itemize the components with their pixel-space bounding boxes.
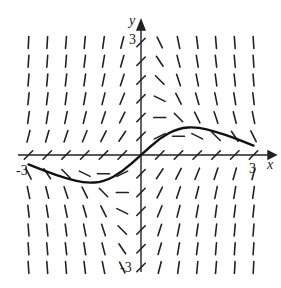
slope-segment bbox=[178, 262, 180, 274]
slope-segment bbox=[46, 112, 48, 124]
slope-segment bbox=[119, 131, 126, 141]
slope-segment bbox=[64, 131, 68, 142]
slope-segment bbox=[234, 205, 236, 217]
slope-segment bbox=[234, 37, 235, 49]
slope-segment bbox=[102, 74, 104, 86]
slope-segment bbox=[84, 262, 86, 274]
slope-segment bbox=[47, 37, 48, 49]
slope-segment bbox=[156, 56, 163, 66]
slope-segment bbox=[177, 55, 180, 67]
slope-segment bbox=[47, 55, 48, 67]
slope-segment bbox=[216, 37, 217, 49]
slope-segment bbox=[47, 262, 48, 274]
slope-segment bbox=[216, 243, 217, 255]
slope-segment bbox=[28, 224, 29, 236]
y-tick-label-neg3: -3 bbox=[120, 261, 132, 275]
slope-segment bbox=[215, 187, 217, 199]
slope-segment bbox=[177, 74, 181, 85]
slope-segment bbox=[233, 112, 236, 124]
slope-segment bbox=[47, 243, 48, 255]
slope-segment bbox=[197, 243, 199, 255]
slope-segment bbox=[84, 74, 86, 86]
slope-segment bbox=[120, 93, 125, 104]
slope-segment bbox=[158, 262, 161, 274]
slope-segment bbox=[46, 131, 49, 143]
slope-segment bbox=[253, 187, 255, 199]
y-axis-arrow-icon bbox=[137, 20, 145, 30]
slope-segment bbox=[46, 205, 48, 217]
slope-segment bbox=[120, 112, 125, 123]
slope-segment bbox=[196, 187, 199, 199]
slope-segment bbox=[101, 206, 106, 217]
y-axis-label: y bbox=[129, 14, 135, 28]
slope-segment bbox=[177, 205, 180, 217]
slope-segment bbox=[83, 206, 86, 218]
axes bbox=[18, 20, 276, 272]
slope-segment bbox=[234, 187, 236, 199]
slope-segment bbox=[28, 37, 29, 49]
slope-segment bbox=[101, 131, 106, 142]
slope-segment bbox=[196, 93, 199, 105]
slope-segment bbox=[103, 55, 105, 67]
slope-segment bbox=[178, 243, 180, 255]
slope-segment bbox=[215, 74, 217, 86]
slope-segment bbox=[158, 224, 162, 235]
slope-segment bbox=[253, 74, 254, 86]
slope-segment bbox=[102, 262, 104, 274]
slope-segment bbox=[215, 93, 217, 105]
slope-segment bbox=[28, 93, 29, 105]
slope-segment bbox=[99, 188, 107, 196]
slope-segment bbox=[196, 55, 198, 67]
slope-segment bbox=[65, 205, 67, 217]
slope-segment bbox=[121, 37, 124, 49]
slope-segment bbox=[65, 224, 67, 236]
slope-segment bbox=[47, 224, 48, 236]
slope-segment bbox=[47, 93, 49, 105]
slope-segment bbox=[157, 187, 162, 198]
slope-segment bbox=[177, 187, 181, 198]
slope-segment bbox=[158, 206, 163, 217]
slope-segment bbox=[234, 55, 235, 67]
slope-segment bbox=[253, 224, 254, 236]
slope-segment bbox=[65, 243, 66, 255]
slope-segment bbox=[197, 37, 199, 49]
slope-segment bbox=[46, 187, 49, 199]
slope-segment bbox=[253, 93, 254, 105]
slope-segment bbox=[253, 55, 254, 67]
slope-segment bbox=[176, 93, 181, 104]
slope-segment bbox=[102, 112, 106, 123]
slope-segment bbox=[154, 96, 165, 101]
slope-segment bbox=[84, 55, 86, 67]
slope-segment bbox=[64, 187, 68, 198]
slope-segment bbox=[253, 243, 254, 255]
slope-segment bbox=[156, 169, 163, 179]
slope-segment bbox=[28, 55, 29, 67]
slope-segment bbox=[27, 187, 29, 199]
slope-segment bbox=[234, 93, 236, 105]
slope-segment bbox=[84, 243, 86, 255]
slope-segment bbox=[27, 130, 30, 142]
slope-segment bbox=[102, 243, 105, 255]
slope-segment bbox=[65, 93, 67, 105]
slope-segment bbox=[252, 112, 254, 124]
slope-segment bbox=[253, 262, 254, 274]
slope-segment bbox=[66, 262, 67, 274]
slope-segment bbox=[66, 37, 67, 49]
slope-segment bbox=[84, 224, 86, 236]
slope-segment bbox=[119, 244, 126, 254]
slope-segment bbox=[117, 209, 128, 214]
slope-segment bbox=[65, 74, 66, 86]
slope-segment bbox=[234, 243, 235, 255]
slope-segment bbox=[84, 37, 85, 49]
slope-segment bbox=[233, 168, 236, 180]
slope-segment bbox=[253, 205, 254, 217]
slope-segment bbox=[197, 262, 198, 274]
slope-segment bbox=[82, 187, 87, 198]
slope-segment bbox=[157, 37, 162, 48]
slope-segment bbox=[28, 74, 29, 86]
slope-segment bbox=[66, 55, 67, 67]
slope-segment bbox=[28, 262, 29, 274]
slope-segment bbox=[214, 112, 218, 123]
slope-segment bbox=[196, 224, 198, 236]
slope-segment bbox=[158, 243, 161, 255]
